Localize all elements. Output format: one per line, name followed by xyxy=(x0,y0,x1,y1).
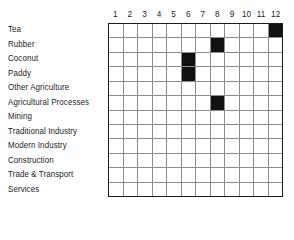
matrix-cell-empty[interactable] xyxy=(196,154,211,167)
matrix-cell-empty[interactable] xyxy=(240,183,255,196)
matrix-cell-empty[interactable] xyxy=(167,154,182,167)
matrix-cell-empty[interactable] xyxy=(124,38,139,51)
matrix-cell-empty[interactable] xyxy=(124,67,139,80)
matrix-cell-empty[interactable] xyxy=(182,183,197,196)
matrix-cell-empty[interactable] xyxy=(240,53,255,66)
matrix-cell-empty[interactable] xyxy=(269,139,283,152)
matrix-cell-empty[interactable] xyxy=(254,96,269,109)
matrix-cell-empty[interactable] xyxy=(109,111,124,124)
matrix-cell-empty[interactable] xyxy=(269,168,283,181)
matrix-cell-empty[interactable] xyxy=(182,24,197,37)
matrix-cell-empty[interactable] xyxy=(124,53,139,66)
matrix-cell-empty[interactable] xyxy=(269,96,283,109)
matrix-cell-empty[interactable] xyxy=(124,96,139,109)
matrix-cell-empty[interactable] xyxy=(225,125,240,138)
matrix-cell-empty[interactable] xyxy=(153,38,168,51)
matrix-cell-empty[interactable] xyxy=(211,168,226,181)
matrix-cell-empty[interactable] xyxy=(240,125,255,138)
matrix-cell-empty[interactable] xyxy=(167,24,182,37)
matrix-cell-empty[interactable] xyxy=(269,154,283,167)
matrix-cell-empty[interactable] xyxy=(124,24,139,37)
matrix-cell-empty[interactable] xyxy=(211,111,226,124)
matrix-cell-empty[interactable] xyxy=(225,67,240,80)
matrix-cell-empty[interactable] xyxy=(109,183,124,196)
matrix-cell-empty[interactable] xyxy=(138,82,153,95)
matrix-cell-empty[interactable] xyxy=(109,67,124,80)
matrix-cell-empty[interactable] xyxy=(269,53,283,66)
matrix-cell-empty[interactable] xyxy=(211,183,226,196)
matrix-cell-empty[interactable] xyxy=(269,67,283,80)
matrix-cell-filled[interactable] xyxy=(182,53,197,66)
matrix-cell-empty[interactable] xyxy=(196,183,211,196)
matrix-cell-empty[interactable] xyxy=(254,183,269,196)
matrix-cell-empty[interactable] xyxy=(254,38,269,51)
matrix-cell-empty[interactable] xyxy=(240,96,255,109)
matrix-cell-filled[interactable] xyxy=(182,67,197,80)
matrix-cell-empty[interactable] xyxy=(240,38,255,51)
matrix-cell-empty[interactable] xyxy=(153,53,168,66)
matrix-cell-empty[interactable] xyxy=(211,24,226,37)
matrix-cell-filled[interactable] xyxy=(269,24,283,37)
matrix-cell-empty[interactable] xyxy=(254,125,269,138)
matrix-cell-empty[interactable] xyxy=(167,125,182,138)
matrix-cell-empty[interactable] xyxy=(124,168,139,181)
matrix-cell-empty[interactable] xyxy=(182,154,197,167)
matrix-cell-empty[interactable] xyxy=(254,24,269,37)
matrix-cell-empty[interactable] xyxy=(196,38,211,51)
matrix-cell-empty[interactable] xyxy=(124,183,139,196)
matrix-cell-empty[interactable] xyxy=(240,154,255,167)
matrix-cell-empty[interactable] xyxy=(124,82,139,95)
matrix-cell-empty[interactable] xyxy=(182,82,197,95)
matrix-cell-empty[interactable] xyxy=(211,154,226,167)
matrix-cell-empty[interactable] xyxy=(225,38,240,51)
matrix-cell-empty[interactable] xyxy=(196,139,211,152)
matrix-cell-empty[interactable] xyxy=(211,82,226,95)
matrix-cell-empty[interactable] xyxy=(182,111,197,124)
matrix-cell-empty[interactable] xyxy=(240,24,255,37)
matrix-cell-empty[interactable] xyxy=(138,111,153,124)
matrix-cell-empty[interactable] xyxy=(167,53,182,66)
matrix-cell-empty[interactable] xyxy=(138,67,153,80)
matrix-cell-empty[interactable] xyxy=(153,111,168,124)
matrix-cell-empty[interactable] xyxy=(153,82,168,95)
matrix-cell-empty[interactable] xyxy=(254,53,269,66)
matrix-cell-empty[interactable] xyxy=(109,96,124,109)
matrix-cell-empty[interactable] xyxy=(196,125,211,138)
matrix-cell-filled[interactable] xyxy=(211,96,226,109)
matrix-cell-empty[interactable] xyxy=(138,38,153,51)
matrix-cell-empty[interactable] xyxy=(167,67,182,80)
matrix-cell-empty[interactable] xyxy=(240,139,255,152)
matrix-cell-empty[interactable] xyxy=(109,53,124,66)
matrix-cell-empty[interactable] xyxy=(225,139,240,152)
matrix-cell-empty[interactable] xyxy=(182,96,197,109)
matrix-cell-empty[interactable] xyxy=(153,154,168,167)
matrix-cell-empty[interactable] xyxy=(225,82,240,95)
matrix-cell-empty[interactable] xyxy=(254,82,269,95)
matrix-cell-empty[interactable] xyxy=(109,24,124,37)
matrix-cell-empty[interactable] xyxy=(269,183,283,196)
matrix-cell-empty[interactable] xyxy=(254,67,269,80)
matrix-cell-empty[interactable] xyxy=(240,168,255,181)
matrix-cell-empty[interactable] xyxy=(196,111,211,124)
matrix-cell-empty[interactable] xyxy=(124,125,139,138)
matrix-cell-empty[interactable] xyxy=(138,183,153,196)
matrix-cell-empty[interactable] xyxy=(153,139,168,152)
matrix-cell-empty[interactable] xyxy=(153,24,168,37)
matrix-cell-empty[interactable] xyxy=(254,154,269,167)
matrix-cell-empty[interactable] xyxy=(225,24,240,37)
matrix-cell-empty[interactable] xyxy=(138,96,153,109)
matrix-cell-empty[interactable] xyxy=(138,125,153,138)
matrix-cell-empty[interactable] xyxy=(225,183,240,196)
matrix-cell-empty[interactable] xyxy=(153,183,168,196)
matrix-cell-empty[interactable] xyxy=(196,53,211,66)
matrix-cell-empty[interactable] xyxy=(269,111,283,124)
matrix-cell-empty[interactable] xyxy=(196,67,211,80)
matrix-cell-empty[interactable] xyxy=(167,38,182,51)
matrix-cell-empty[interactable] xyxy=(196,82,211,95)
matrix-cell-empty[interactable] xyxy=(254,168,269,181)
matrix-cell-empty[interactable] xyxy=(211,139,226,152)
matrix-cell-empty[interactable] xyxy=(225,154,240,167)
matrix-cell-empty[interactable] xyxy=(138,154,153,167)
matrix-cell-empty[interactable] xyxy=(153,125,168,138)
matrix-cell-empty[interactable] xyxy=(167,96,182,109)
